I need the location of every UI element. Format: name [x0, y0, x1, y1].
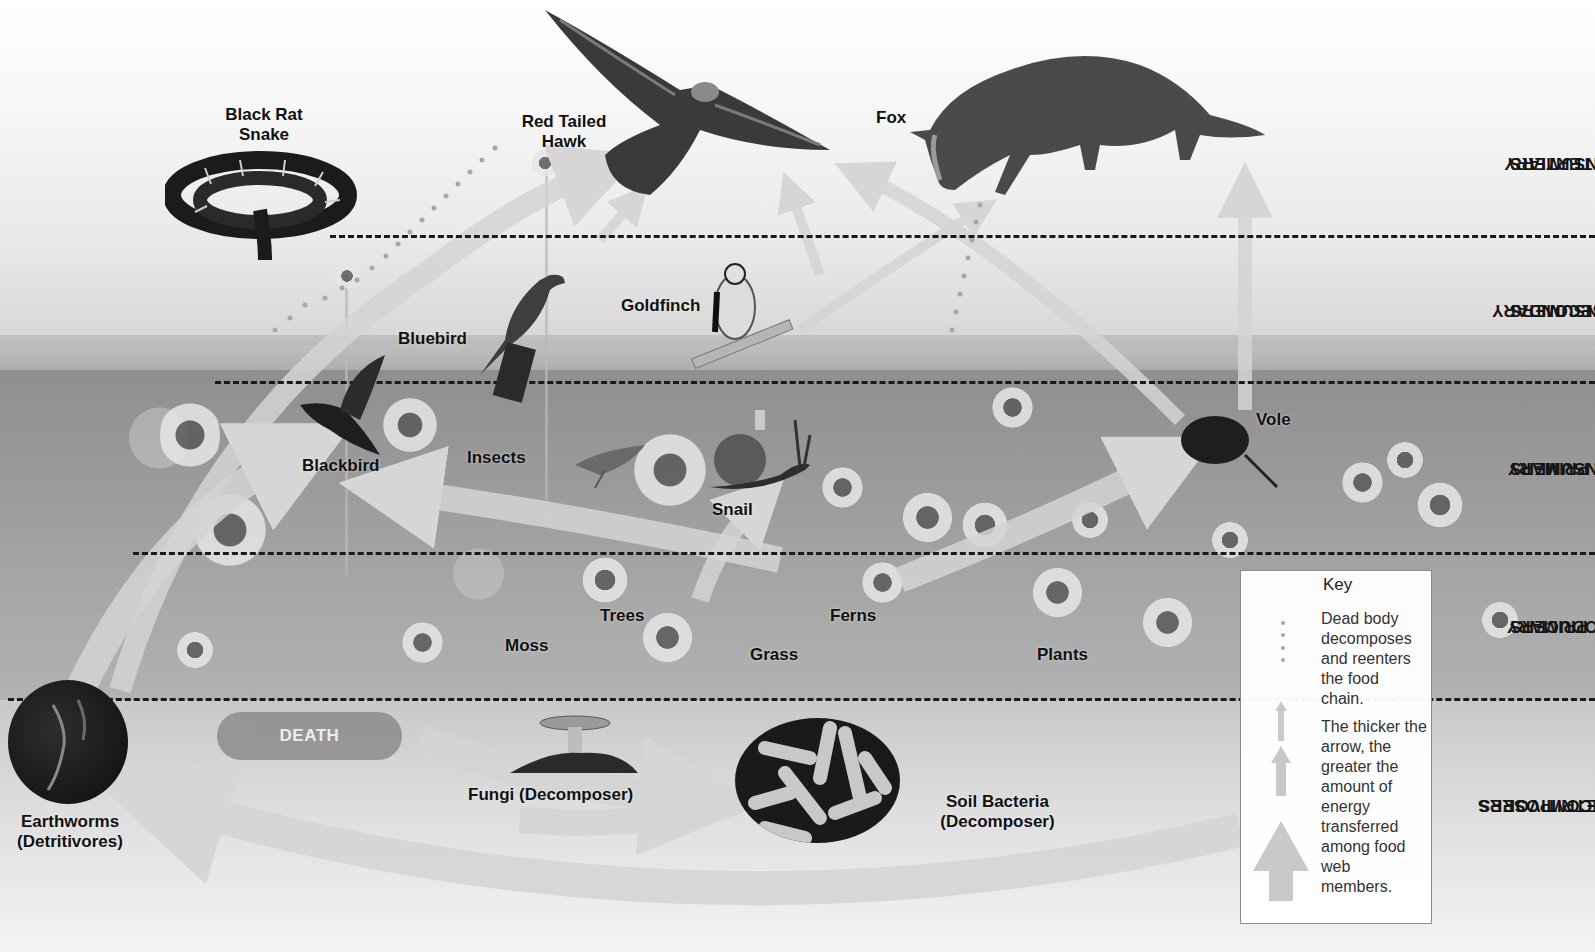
snake-image [165, 150, 360, 265]
label-grass: Grass [750, 645, 798, 665]
key-dotted-description: Dead body decomposes and reenters the fo… [1321, 609, 1429, 709]
label-fox: Fox [876, 108, 906, 128]
level-decomposers-detritivores: DECOMPOSERSAND DETRITIVORES [1527, 705, 1587, 905]
dotted-line-icon [1281, 646, 1285, 650]
divider-tertiary-secondary [330, 235, 1595, 238]
dotted-line-icon [1281, 621, 1285, 625]
death-text: DEATH [280, 726, 340, 746]
soil-bacteria-image [735, 718, 900, 843]
label-ferns: Ferns [830, 606, 876, 626]
earthworms-image [8, 680, 128, 804]
fox-image [910, 40, 1270, 200]
key-title: Key [1323, 575, 1352, 595]
label-bluebird: Bluebird [398, 329, 467, 349]
dotted-line-icon [1281, 633, 1285, 637]
label-soil-bacteria: Soil Bacteria (Decomposer) [930, 792, 1065, 832]
level-tertiary-consumers: TERTIARYCONSUMERS [1527, 90, 1587, 235]
label-vole: Vole [1256, 410, 1291, 430]
label-fungi: Fungi (Decomposer) [468, 785, 633, 805]
level-primary-producers: PRIMARYPRODUCERS [1527, 556, 1587, 696]
bluebird-image [470, 265, 570, 405]
divider-primary-producers [133, 552, 1595, 555]
dotted-line-icon [1281, 658, 1285, 662]
label-insects: Insects [467, 448, 526, 468]
label-goldfinch: Goldfinch [621, 296, 700, 316]
fungi-image [510, 715, 640, 775]
label-blackbird: Blackbird [302, 456, 379, 476]
label-red-tailed-hawk: Red Tailed Hawk [505, 112, 623, 152]
level-secondary-consumers: SECONDARYCONSUMERS [1527, 240, 1587, 380]
label-trees: Trees [600, 606, 644, 626]
death-label: DEATH [217, 712, 402, 760]
label-snail: Snail [712, 500, 753, 520]
label-earthworms: Earthworms (Detritivores) [5, 812, 135, 852]
food-web-diagram: TERTIARYCONSUMERS SECONDARYCONSUMERS PRI… [0, 0, 1595, 952]
divider-secondary-primary [215, 381, 1595, 384]
label-plants: Plants [1037, 645, 1088, 665]
hawk-image [540, 0, 840, 200]
label-black-rat-snake: Black Rat Snake [205, 105, 323, 145]
blackbird-image [295, 350, 395, 460]
label-moss: Moss [505, 636, 548, 656]
insect-image [570, 440, 650, 490]
legend-key: Key Dead body decomposes and reenters th… [1240, 570, 1432, 924]
key-arrow-description: The thicker the arrow, the greater the a… [1321, 717, 1429, 897]
snail-image [700, 415, 815, 500]
goldfinch-image [685, 262, 795, 377]
arrow-thickness-icons [1251, 701, 1321, 921]
level-primary-consumers: PRIMARYCONSUMERS [1527, 385, 1587, 550]
